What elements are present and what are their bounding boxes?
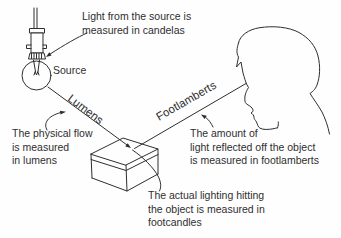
footlamberts-pointer-arrowhead-icon bbox=[201, 115, 207, 120]
annotation-candelas: Light from the source is measured in can… bbox=[82, 10, 191, 37]
face-profile-outline bbox=[237, 43, 278, 129]
light-measurement-diagram: Lumens Footlamberts Light from the sourc… bbox=[0, 0, 341, 238]
candelas-pointer-arrow bbox=[46, 33, 87, 57]
candelas-arrowhead-icon bbox=[46, 52, 52, 57]
annotation-footcandles: The actual lighting hitting the object i… bbox=[148, 189, 265, 230]
bulb-globe bbox=[22, 61, 51, 90]
head-profile-icon bbox=[237, 27, 330, 134]
footlamberts-line-label: Footlamberts bbox=[154, 79, 218, 123]
light-bulb-icon bbox=[22, 8, 51, 90]
annotation-footlamberts: The amount of light reflected off the ob… bbox=[190, 127, 319, 168]
footcandles-connector-line bbox=[133, 150, 161, 191]
bulb-cord bbox=[34, 8, 37, 28]
box-top-face bbox=[91, 138, 158, 165]
annotation-lumens: The physical flow is measured in lumens bbox=[12, 127, 93, 168]
bulb-filament bbox=[34, 60, 40, 75]
footlamberts-pointer-arrow bbox=[201, 115, 213, 128]
bulb-socket-cap bbox=[30, 29, 45, 34]
lumens-line-label: Lumens bbox=[66, 92, 106, 126]
lumens-pointer-arrowhead-icon bbox=[60, 111, 66, 115]
head-back-outline bbox=[239, 27, 330, 134]
source-label: Source bbox=[53, 64, 86, 76]
bulb-socket-body bbox=[31, 33, 43, 53]
object-box-icon bbox=[91, 138, 158, 191]
